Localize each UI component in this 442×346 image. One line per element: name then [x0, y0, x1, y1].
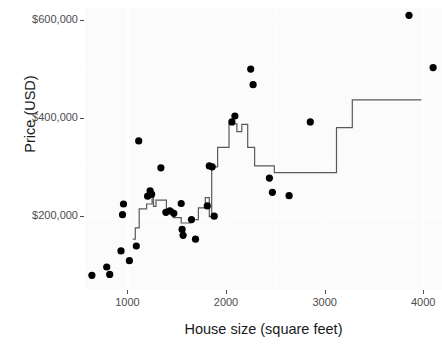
- data-point: [247, 66, 254, 73]
- data-point: [126, 257, 133, 264]
- data-point: [209, 163, 216, 170]
- data-point: [307, 118, 314, 125]
- data-point: [192, 236, 199, 243]
- plot-panel: [85, 8, 442, 290]
- x-tick-label: 2000: [196, 296, 256, 308]
- x-tick-mark: [325, 290, 326, 294]
- data-point: [204, 202, 211, 209]
- data-point: [286, 192, 293, 199]
- x-tick-label: 4000: [393, 296, 442, 308]
- data-point: [211, 213, 218, 220]
- data-point: [106, 271, 113, 278]
- scatter-plot-figure: Price (USD) House size (square feet) $20…: [0, 0, 442, 346]
- data-point: [103, 263, 110, 270]
- data-point: [250, 81, 257, 88]
- data-point: [170, 210, 177, 217]
- data-point: [188, 216, 195, 223]
- data-point: [117, 247, 124, 254]
- data-point: [135, 137, 142, 144]
- data-points-layer: [85, 8, 442, 290]
- data-point: [119, 211, 126, 218]
- data-point: [180, 232, 187, 239]
- x-tick-mark: [423, 290, 424, 294]
- data-point: [269, 189, 276, 196]
- data-point: [231, 112, 238, 119]
- x-tick-label: 1000: [97, 296, 157, 308]
- data-point: [430, 64, 437, 71]
- x-tick-mark: [226, 290, 227, 294]
- data-point: [148, 191, 155, 198]
- data-point: [266, 175, 273, 182]
- x-tick-label: 3000: [295, 296, 355, 308]
- data-point: [88, 272, 95, 279]
- data-point: [405, 12, 412, 19]
- data-point: [157, 164, 164, 171]
- x-tick-mark: [127, 290, 128, 294]
- data-point: [120, 200, 127, 207]
- data-point: [178, 200, 185, 207]
- data-point: [133, 242, 140, 249]
